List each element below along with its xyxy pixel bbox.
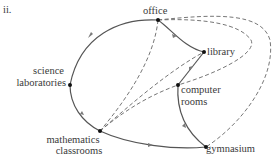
label-science-line1: science [16,65,64,76]
node-science-laboratories [68,83,72,87]
dashed-edge-mathematics-computer [100,85,178,131]
label-computer-line1: computer [181,84,221,95]
edge-mathematics-gymnasium [100,131,206,148]
edge-science-mathematics [70,85,100,131]
label-gymnasium: gymnasium [206,143,255,154]
label-library: library [207,46,235,57]
dashed-edge-office-mathematics [100,20,158,131]
label-science-line2: laboratories [2,77,66,88]
node-office [156,18,160,22]
figure-label: ii. [3,4,11,15]
label-office: office [143,5,167,16]
label-mathematics-line2: classrooms [46,145,112,156]
node-computer-rooms [176,83,180,87]
arrow-icon [88,32,93,38]
edge-library-office [158,20,204,52]
label-computer-line2: rooms [181,96,207,107]
label-mathematics-line1: mathematics [40,134,106,145]
arrow-icon [148,143,153,147]
edge-office-science [70,20,158,85]
node-mathematics-classrooms [98,129,102,133]
node-library [202,50,206,54]
